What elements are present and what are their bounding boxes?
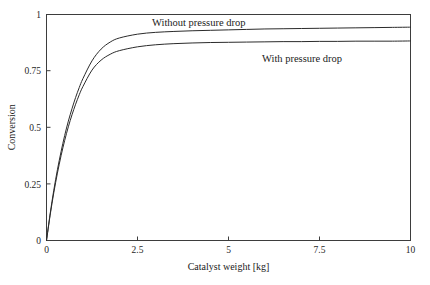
x-tick-label-2p5: 2.5 xyxy=(132,245,144,255)
y-tick-label-0p25: 0.25 xyxy=(24,180,41,190)
y-tick-label-0: 0 xyxy=(36,236,41,246)
y-tick-label-0p5: 0.5 xyxy=(29,123,41,133)
conversion-vs-catalyst-weight-chart: 0 0.25 0.5 0.75 1 0 2.5 5 7.5 10 Catalys… xyxy=(0,0,430,285)
y-axis-title: Conversion xyxy=(6,104,17,150)
y-tick-label-1: 1 xyxy=(36,10,41,20)
chart-figure: 0 0.25 0.5 0.75 1 0 2.5 5 7.5 10 Catalys… xyxy=(0,0,430,285)
x-tick-label-0: 0 xyxy=(44,245,49,255)
x-tick-label-10: 10 xyxy=(406,245,416,255)
x-tick-label-5: 5 xyxy=(226,245,231,255)
annotation-without-pressure-drop: Without pressure drop xyxy=(152,17,245,28)
y-tick-label-0p75: 0.75 xyxy=(24,66,41,76)
x-axis-title: Catalyst weight [kg] xyxy=(188,261,270,272)
x-tick-label-7p5: 7.5 xyxy=(314,245,326,255)
annotation-with-pressure-drop: With pressure drop xyxy=(262,53,342,64)
